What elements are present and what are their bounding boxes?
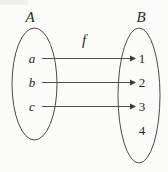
element-4-label: 4	[139, 123, 146, 138]
element-2-label: 2	[139, 75, 146, 90]
function-mapping-figure: A B f a b c 1 2 3 4	[0, 0, 168, 172]
element-3-label: 3	[139, 99, 146, 114]
element-1-label: 1	[139, 51, 146, 66]
element-c-label: c	[29, 99, 35, 114]
scan-artifact	[0, 0, 28, 5]
set-a-label: A	[24, 9, 35, 25]
set-b-oval	[118, 28, 160, 163]
diagram-canvas: A B f a b c 1 2 3 4	[0, 0, 168, 172]
set-b-label: B	[136, 9, 145, 25]
element-b-label: b	[29, 75, 36, 90]
mapping-arrow-c-to-3	[42, 104, 136, 110]
element-a-label: a	[29, 51, 36, 66]
mapping-arrow-b-to-2	[42, 80, 136, 86]
function-label-f: f	[82, 32, 88, 48]
